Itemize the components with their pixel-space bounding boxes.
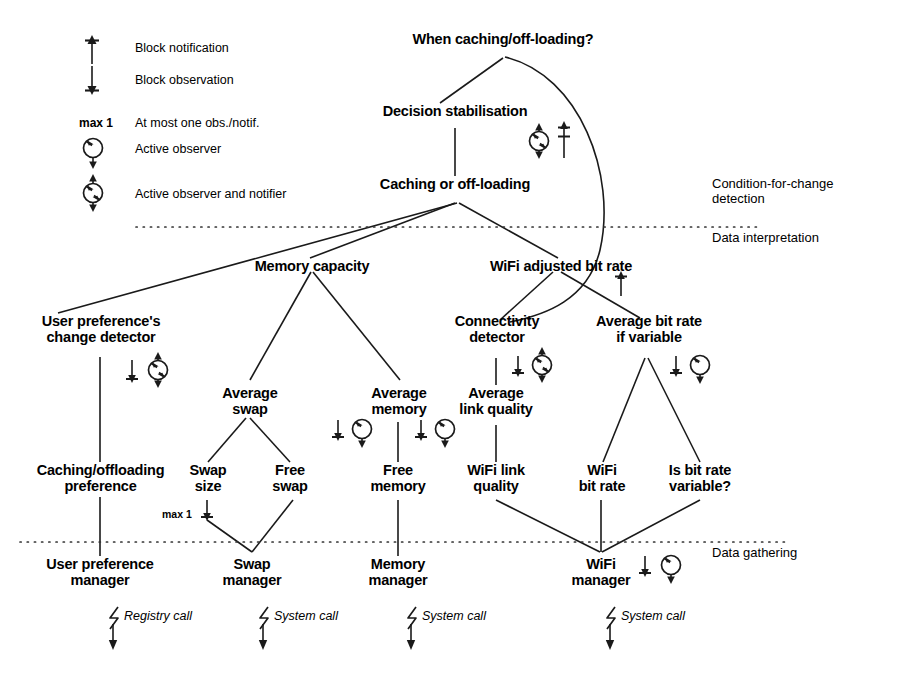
node-wifi-link-quality[interactable]: WiFi link quality	[449, 462, 543, 494]
edge-avgbitrate-to-wifibitrate	[603, 358, 645, 462]
edge-avgswap-to-freeswap	[250, 418, 290, 462]
legend-active-observer-icon	[84, 139, 103, 170]
node-wifi-manager[interactable]: WiFi manager	[556, 556, 646, 588]
node-average-swap[interactable]: Average swap	[213, 385, 287, 417]
edge-memory-to-avgswap	[250, 272, 311, 380]
edge-freeswap-to-swapmgr	[252, 500, 293, 552]
node-caching-offloading-preference[interactable]: Caching/offloading preference	[18, 462, 183, 494]
node-average-bit-rate-if-variable[interactable]: Average bit rate if variable	[578, 313, 720, 345]
legend-label-at-most-one: At most one obs./notif.	[135, 116, 259, 130]
edge-avgbitrate-to-isvariable	[648, 358, 700, 462]
call-label-system-call-swap: System call	[274, 609, 338, 623]
annotation-max-1-swap-size: max 1	[162, 508, 192, 520]
symbol-registry-call-arrow	[109, 607, 118, 650]
zone-label-condition-for-change-detection: Condition-for-change detection	[712, 176, 833, 206]
legend-max-1-text: max 1	[79, 116, 113, 130]
node-swap-manager[interactable]: Swap manager	[208, 556, 296, 588]
symbol-avgmemory-active-observer	[436, 420, 455, 449]
call-label-registry-call: Registry call	[124, 609, 192, 623]
legend-label-active-observer-and-notifier: Active observer and notifier	[135, 187, 286, 201]
node-connectivity-detector[interactable]: Connectivity detector	[436, 313, 558, 345]
node-free-memory[interactable]: Free memory	[358, 462, 438, 494]
node-wifi-adjusted-bit-rate[interactable]: WiFi adjusted bit rate	[462, 258, 660, 274]
edge-wifiadj-to-avgbitrate	[561, 272, 640, 318]
symbol-decision-stabilisation-observer-notifier	[530, 123, 549, 159]
symbol-swapsize-block-observation	[201, 500, 213, 521]
symbol-connectivity-block-observation	[512, 356, 524, 377]
symbol-decision-stabilisation-block-notification	[558, 121, 570, 158]
node-caching-or-offloading[interactable]: Caching or off-loading	[355, 176, 555, 192]
edge-swapsize-to-swapmgr	[207, 520, 252, 552]
symbol-userpref-observer-notifier	[149, 352, 168, 388]
legend-label-block-observation: Block observation	[135, 73, 234, 87]
symbol-connectivity-observer-notifier	[533, 347, 552, 383]
legend-block-notification-icon	[85, 35, 99, 64]
legend-active-observer-and-notifier-icon	[84, 174, 103, 212]
node-user-preference-manager[interactable]: User preference manager	[24, 556, 176, 588]
edge-when-to-decision	[440, 58, 503, 103]
edge-caching-to-memory	[310, 203, 455, 258]
edge-memory-to-avgmemory	[313, 272, 400, 380]
symbol-avgswap-block-observation	[332, 420, 344, 441]
legend-label-active-observer: Active observer	[135, 142, 221, 156]
edge-wifilink-to-wifimgr	[496, 500, 600, 552]
symbol-wifi-adjusted-block-notification	[615, 271, 627, 296]
node-wifi-bit-rate[interactable]: WiFi bit rate	[563, 462, 641, 494]
node-user-preferences-change-detector[interactable]: User preference's change detector	[15, 313, 187, 345]
symbol-avgbitrate-active-observer	[691, 356, 710, 385]
symbol-avgswap-active-observer	[353, 420, 372, 449]
edge-caching-to-wifi-adjusted	[459, 203, 558, 258]
node-average-memory[interactable]: Average memory	[360, 385, 438, 417]
zone-label-data-gathering: Data gathering	[712, 545, 797, 560]
diagram-canvas: Block notification Block observation max…	[0, 0, 911, 676]
node-memory-manager[interactable]: Memory manager	[348, 556, 448, 588]
symbol-userpref-block-observation	[126, 360, 138, 383]
node-decision-stabilisation[interactable]: Decision stabilisation	[350, 103, 560, 119]
symbol-system-call-wifi-arrow	[606, 607, 615, 650]
legend-block-observation-icon	[85, 66, 99, 95]
node-free-swap[interactable]: Free swap	[259, 462, 321, 494]
node-is-bit-rate-variable[interactable]: Is bit rate variable?	[652, 462, 748, 494]
node-average-link-quality[interactable]: Average link quality	[440, 385, 552, 417]
node-when-caching-offloading[interactable]: When caching/off-loading?	[383, 31, 623, 47]
symbol-system-call-swap-arrow	[259, 607, 268, 650]
symbol-wifimgr-active-observer	[662, 556, 681, 585]
call-label-system-call-wifi: System call	[621, 609, 685, 623]
node-swap-size[interactable]: Swap size	[177, 462, 239, 494]
edge-isvariable-to-wifimgr	[602, 500, 700, 552]
legend-label-block-notification: Block notification	[135, 41, 229, 55]
symbol-avgmemory-block-observation	[415, 420, 427, 441]
node-memory-capacity[interactable]: Memory capacity	[222, 258, 402, 274]
call-label-system-call-memory: System call	[422, 609, 486, 623]
zone-label-data-interpretation: Data interpretation	[712, 230, 819, 245]
symbol-avgbitrate-block-observation	[670, 356, 682, 377]
symbol-system-call-memory-arrow	[407, 607, 416, 650]
edge-avgswap-to-swapsize	[208, 418, 246, 462]
